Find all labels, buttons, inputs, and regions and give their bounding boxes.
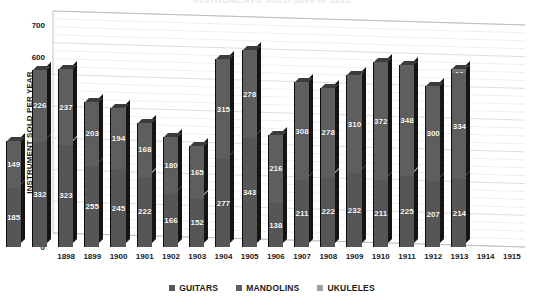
bar-group[interactable]: 278343 [242,50,257,247]
bar-group[interactable]: 194245 [110,108,125,247]
bar-segment-mandolins[interactable]: 194 [110,108,125,170]
legend-item-mandolins[interactable]: MANDOLINS [236,283,299,293]
bar-segment-mandolins[interactable]: 278 [320,88,335,176]
legend-swatch-icon [236,285,242,291]
bar-group[interactable]: 180166 [163,137,178,247]
bar-group[interactable]: 12334214 [451,69,466,247]
bar-segment-guitars[interactable]: 232 [346,173,361,247]
x-tick-label: 1909 [341,252,367,261]
bar-value-label: 180 [164,161,178,170]
bar-segment-mandolins[interactable]: 315 [215,59,230,159]
legend-swatch-icon [169,285,175,291]
bar-group[interactable]: 278222 [320,88,335,247]
bar-segment-mandolins[interactable]: 226 [32,70,47,142]
x-tick-label: 1914 [473,252,499,261]
bar-value-label: 315 [216,105,230,114]
bar-group[interactable]: 237323 [58,69,73,247]
x-tick-label: 1908 [315,252,341,261]
bar-segment-mandolins[interactable]: 149 [6,141,21,188]
x-tick-label: 1913 [446,252,472,261]
bar-value-label: 211 [374,209,388,218]
bar-side-face [47,134,51,243]
legend-item-ukuleles[interactable]: UKULELES [317,283,374,293]
bar-side-face [388,172,392,243]
bar-side-face [362,165,366,243]
bar-side-face [99,94,103,162]
bar-segment-mandolins[interactable]: 165 [189,146,204,198]
bar-value-label: 343 [243,188,257,197]
bar-segment-guitars[interactable]: 245 [110,169,125,247]
bar-value-label: 232 [347,206,361,215]
bar-value-label: 278 [243,90,257,99]
bar-value-label: 255 [85,202,99,211]
bar-segment-guitars[interactable]: 332 [32,142,47,247]
bar-value-label: 152 [190,218,204,227]
bar-segment-mandolins[interactable]: 334 [451,73,466,179]
bar-side-face [178,186,182,243]
legend-item-guitars[interactable]: GUITARS [169,283,218,293]
bar-segment-guitars[interactable]: 222 [320,177,335,247]
bar-segment-guitars[interactable]: 211 [294,180,309,247]
chart-container: INSTRUMENTS SOLD 1898 to 1915 INSTRUMENT… [0,0,544,306]
bar-side-face [73,137,77,243]
bar-side-face [466,171,470,243]
bar-group[interactable]: 203255 [84,102,99,247]
bar-value-label: 194 [111,134,125,143]
bar-group[interactable]: 348225 [399,65,414,247]
bar-side-face [283,127,287,200]
bar-segment-mandolins[interactable]: 168 [137,123,152,176]
bar-segment-guitars[interactable]: 138 [268,203,283,247]
bar-segment-guitars[interactable]: 214 [451,179,466,247]
legend-swatch-icon [317,285,323,291]
bar-side-face [414,57,418,171]
bar-segment-mandolins[interactable]: 372 [373,62,388,180]
bar-value-label: 203 [85,129,99,138]
bar-value-label: 138 [269,221,283,230]
bar-group[interactable]: 308211 [294,82,309,247]
bar-segment-guitars[interactable]: 152 [189,199,204,247]
bar-segment-mandolins[interactable]: 203 [84,102,99,166]
bar-group[interactable]: 310232 [346,75,361,247]
x-tick-label: 1905 [237,252,263,261]
bar-group[interactable]: 315277 [215,59,230,247]
bar-segment-mandolins[interactable]: 348 [399,65,414,175]
bar-segment-guitars[interactable]: 225 [399,176,414,247]
bar-segment-guitars[interactable]: 211 [373,180,388,247]
bar-value-label: 226 [33,101,47,110]
bar-segment-mandolins[interactable]: 278 [242,50,257,138]
x-tick-label: 1910 [368,252,394,261]
bar-segment-guitars[interactable]: 166 [163,194,178,247]
bar-segment-mandolins[interactable]: 300 [425,86,440,181]
bar-segment-mandolins[interactable]: 237 [58,69,73,144]
bar-side-face [440,173,444,243]
bar-side-face [152,115,156,172]
bar-segment-guitars[interactable]: 277 [215,159,230,247]
bar-value-label: 277 [216,199,230,208]
bar-group[interactable]: 165152 [189,146,204,247]
bar-segment-guitars[interactable]: 207 [425,181,440,247]
x-tick-label: 1901 [132,252,158,261]
bar-value-label: 310 [347,120,361,129]
bar-group[interactable]: 226332 [32,70,47,247]
bar-segment-mandolins[interactable]: 310 [346,75,361,173]
x-tick-label: 1906 [263,252,289,261]
x-tick-label: 1902 [158,252,184,261]
bar-value-label: 372 [374,117,388,126]
bar-value-label: 300 [426,129,440,138]
bar-segment-guitars[interactable]: 323 [58,145,73,247]
bar-group[interactable]: 216138 [268,135,283,247]
bar-segment-guitars[interactable]: 255 [84,166,99,247]
bar-segment-mandolins[interactable]: 180 [163,137,178,194]
bar-group[interactable]: 300207 [425,86,440,247]
bar-value-label: 216 [269,164,283,173]
bar-segment-guitars[interactable]: 185 [6,188,21,247]
bar-side-face [230,51,234,155]
bar-side-face [178,129,182,190]
bar-segment-guitars[interactable]: 343 [242,138,257,247]
bar-group[interactable]: 168222 [137,123,152,247]
bar-segment-mandolins[interactable]: 216 [268,135,283,204]
bar-group[interactable]: 372211 [373,62,388,247]
bar-group[interactable]: 149185 [6,141,21,247]
bar-segment-guitars[interactable]: 222 [137,177,152,247]
bar-segment-mandolins[interactable]: 308 [294,82,309,180]
